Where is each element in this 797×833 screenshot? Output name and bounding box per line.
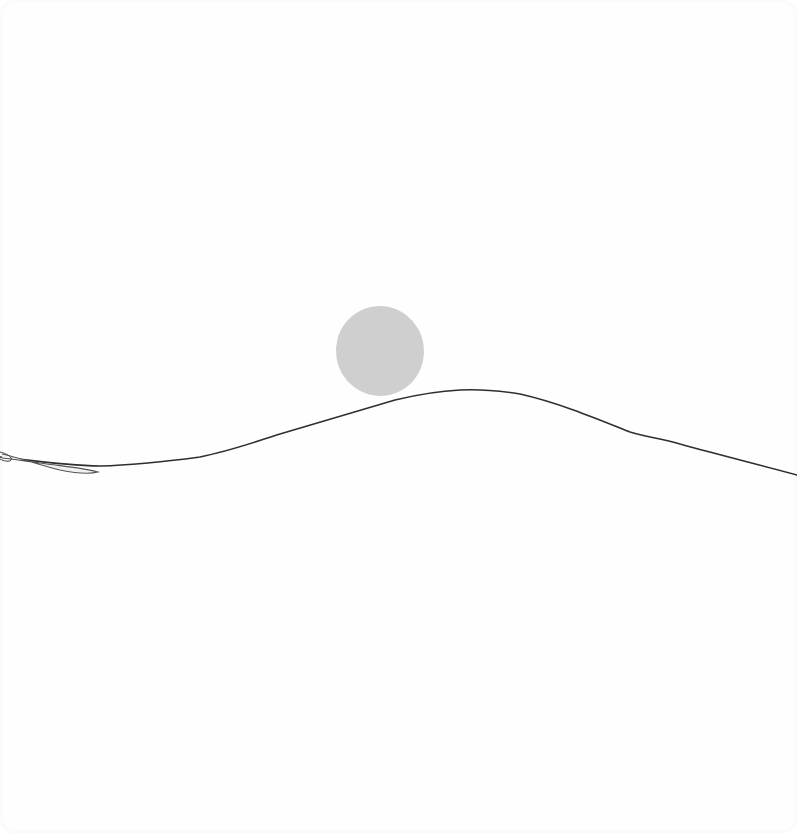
leaf-shape [2,454,98,473]
drawing-canvas [0,0,797,833]
sketch-illustration [0,0,797,833]
hill-line [0,390,797,475]
sun-orb [330,300,430,401]
